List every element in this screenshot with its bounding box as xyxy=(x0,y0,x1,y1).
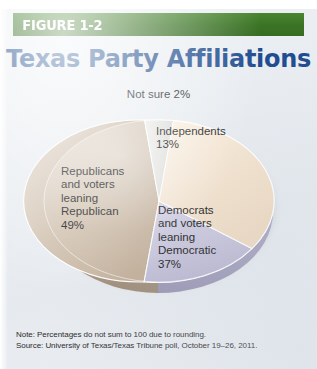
slice-label-republicans: Republicans and voters leaning Republica… xyxy=(61,165,124,232)
slice-label-democrats-line1: Democrats xyxy=(158,204,216,217)
slice-label-independents-value: 13% xyxy=(156,138,226,151)
footnote-source: Source: University of Texas/Texas Tribun… xyxy=(16,340,306,351)
figure-card: FIGURE 1-2 Texas Party Affiliations Not … xyxy=(0,0,317,369)
slice-label-democrats-value: 37% xyxy=(158,258,216,271)
footnote-note: Note: Percentages do not sum to 100 due … xyxy=(16,329,306,340)
slice-label-republicans-value: 49% xyxy=(61,219,124,232)
slice-label-democrats-line2: and voters xyxy=(158,217,216,230)
figure-number-banner: FIGURE 1-2 xyxy=(13,13,304,36)
slice-label-republicans-line2: and voters xyxy=(61,178,124,191)
slice-label-republicans-line1: Republicans xyxy=(61,165,124,178)
slice-label-republicans-line4: Republican xyxy=(61,205,124,218)
slice-label-democrats: Democrats and voters leaning Democratic … xyxy=(158,204,216,271)
slice-label-democrats-line4: Democratic xyxy=(158,244,216,257)
figure-number-label: FIGURE 1-2 xyxy=(13,17,102,33)
figure-footnote: Note: Percentages do not sum to 100 due … xyxy=(16,329,306,351)
slice-label-republicans-line3: leaning xyxy=(61,192,124,205)
slice-label-independents: Independents 13% xyxy=(156,125,226,152)
pie-chart: Independents 13% Republicans and voters … xyxy=(0,103,317,308)
paper-edge-top xyxy=(0,0,317,9)
slice-label-not-sure: Not sure 2% xyxy=(0,88,317,100)
page-title: Texas Party Affiliations xyxy=(0,45,317,73)
slice-label-independents-name: Independents xyxy=(156,125,226,138)
slice-label-democrats-line3: leaning xyxy=(158,231,216,244)
